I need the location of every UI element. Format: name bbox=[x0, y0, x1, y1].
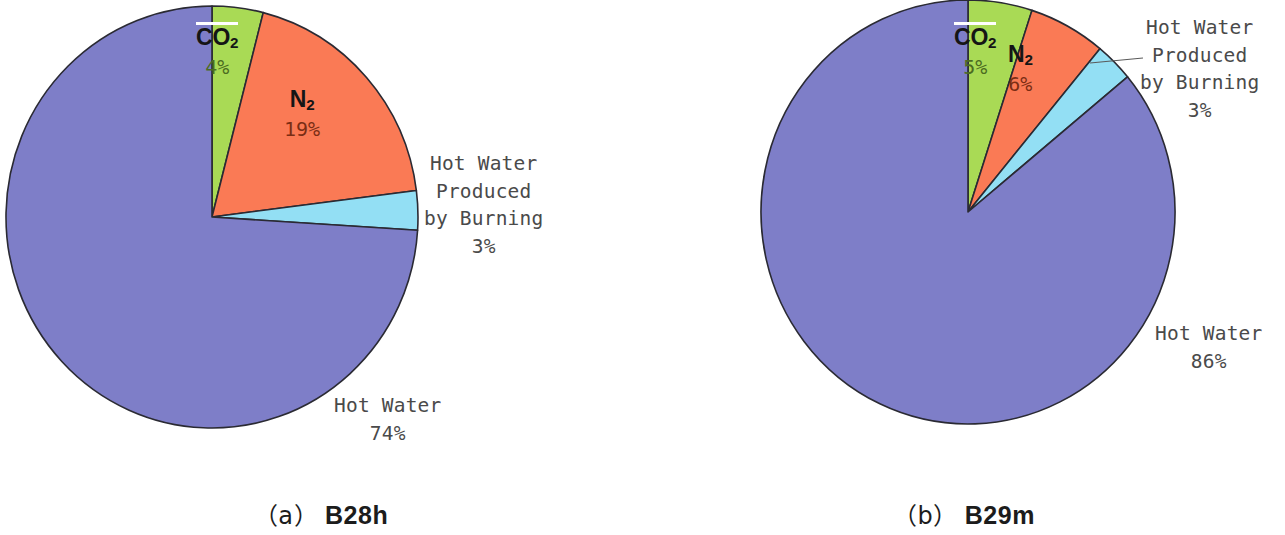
slice-label-co2-a: CO2 4% bbox=[196, 22, 238, 81]
n2-formula-a: N2 bbox=[284, 88, 320, 113]
hot-water-line1-b: Hot Water bbox=[1155, 322, 1262, 345]
slice-label-co2-b: CO2 5% bbox=[954, 22, 996, 81]
co2-formula-b: CO2 bbox=[954, 22, 996, 51]
burning-line2-a: Produced bbox=[436, 180, 532, 203]
hot-water-percent-a: 74% bbox=[334, 420, 441, 448]
burning-line1-b: Hot Water bbox=[1146, 16, 1253, 39]
callout-hot-water-b: Hot Water 86% bbox=[1155, 320, 1262, 375]
hot-water-percent-b: 86% bbox=[1155, 348, 1262, 376]
burning-percent-b: 3% bbox=[1140, 97, 1259, 125]
pie-chart-a: CO2 4%N2 19%Hot Water Produced by Burnin… bbox=[0, 0, 642, 490]
hot-water-line1-a: Hot Water bbox=[334, 394, 441, 417]
burning-line2-b: Produced bbox=[1152, 44, 1248, 67]
panel-caption-index-a: （a） bbox=[254, 502, 318, 530]
slice-label-n2-b: N2 6% bbox=[1008, 43, 1033, 98]
callout-hot-water-burning-a: Hot Water Produced by Burning 3% bbox=[424, 150, 543, 261]
panel-caption-name-b: B29m bbox=[965, 501, 1035, 529]
callout-hot-water-burning-b: Hot Water Produced by Burning 3% bbox=[1140, 14, 1259, 125]
panel-caption-a: （a）B28h bbox=[0, 496, 642, 531]
n2-percent-b: 6% bbox=[1008, 71, 1033, 98]
burning-line1-a: Hot Water bbox=[430, 152, 537, 175]
burning-line3-a: by Burning bbox=[424, 207, 543, 230]
co2-percent-b: 5% bbox=[954, 54, 996, 81]
panel-caption-index-b: （b） bbox=[893, 502, 958, 530]
burning-line3-b: by Burning bbox=[1140, 71, 1259, 94]
panel-caption-name-a: B28h bbox=[325, 501, 388, 529]
co2-percent-a: 4% bbox=[196, 54, 238, 81]
pie-panel-b: CO2 5%N2 6%Hot Water Produced by Burning… bbox=[643, 0, 1285, 535]
pie-panel-a: CO2 4%N2 19%Hot Water Produced by Burnin… bbox=[0, 0, 642, 535]
slice-label-n2-a: N2 19% bbox=[284, 88, 320, 143]
n2-percent-a: 19% bbox=[284, 116, 320, 143]
panel-caption-b: （b）B29m bbox=[643, 496, 1285, 531]
figure-root: CO2 4%N2 19%Hot Water Produced by Burnin… bbox=[0, 0, 1285, 535]
burning-percent-a: 3% bbox=[424, 233, 543, 261]
co2-formula-a: CO2 bbox=[196, 22, 238, 51]
n2-formula-b: N2 bbox=[1008, 43, 1033, 68]
callout-hot-water-a: Hot Water 74% bbox=[334, 392, 441, 447]
